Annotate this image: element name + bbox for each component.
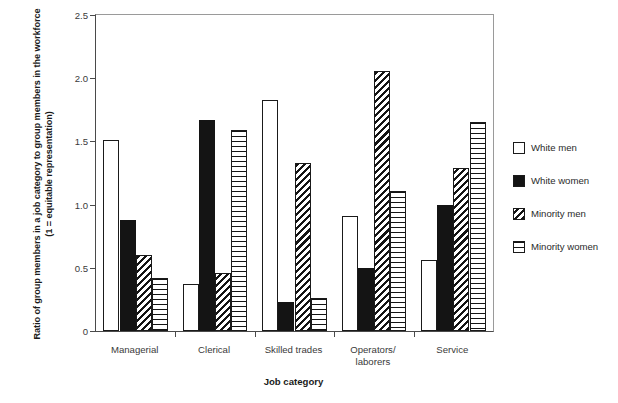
bar (183, 284, 199, 331)
y-axis-tick-label: 1.0 (75, 199, 88, 210)
bar (374, 71, 390, 331)
x-axis-tick (175, 331, 176, 337)
bar (470, 122, 486, 331)
bar (421, 260, 437, 331)
x-axis-group-label: Operators/ laborers (333, 344, 412, 368)
bar (262, 100, 278, 331)
x-axis-title: Job category (95, 376, 492, 387)
bar (311, 298, 327, 331)
y-axis-tick-label: 2.5 (75, 10, 88, 21)
bar (199, 120, 215, 331)
bar (103, 140, 119, 331)
bar (231, 130, 247, 331)
x-axis-tick (414, 331, 415, 337)
bar-chart: Ratio of group members in a job category… (0, 0, 618, 403)
bar (136, 255, 152, 331)
legend: White menWhite womenMinority menMinority… (513, 141, 618, 273)
bar (120, 220, 136, 331)
legend-swatch-icon (513, 142, 525, 154)
y-axis-tick-label: 0.5 (75, 262, 88, 273)
bar (278, 302, 294, 331)
x-axis-tick (255, 331, 256, 337)
bar (453, 168, 469, 331)
legend-swatch-icon (513, 241, 525, 253)
x-axis-group-label: Managerial (95, 344, 174, 356)
bar (358, 268, 374, 331)
bars-layer (96, 15, 493, 331)
legend-swatch-icon (513, 175, 525, 187)
legend-item-label: Minority women (531, 241, 598, 252)
y-axis-title: Ratio of group members in a job category… (20, 4, 66, 344)
legend-item: White women (513, 174, 618, 187)
legend-item-label: Minority men (531, 208, 586, 219)
y-axis-tick-label: 1.5 (75, 136, 88, 147)
legend-item-label: White men (531, 142, 577, 153)
bar (390, 191, 406, 331)
bar (437, 205, 453, 331)
bar (342, 216, 358, 331)
plot-area: 00.51.01.52.02.5 (95, 14, 494, 332)
x-axis-tick (334, 331, 335, 337)
legend-item: White men (513, 141, 618, 154)
bar (295, 163, 311, 331)
y-axis-tick-label: 2.0 (75, 73, 88, 84)
bar (152, 278, 168, 331)
legend-item: Minority men (513, 207, 618, 220)
bar (215, 273, 231, 331)
y-axis-tick (90, 331, 96, 332)
legend-item: Minority women (513, 240, 618, 253)
x-axis-group-label: Clerical (174, 344, 253, 356)
x-axis-group-label: Skilled trades (254, 344, 333, 356)
y-axis-tick-label: 0 (83, 326, 88, 337)
legend-swatch-icon (513, 208, 525, 220)
x-axis-group-label: Service (413, 344, 492, 356)
legend-item-label: White women (531, 175, 589, 186)
